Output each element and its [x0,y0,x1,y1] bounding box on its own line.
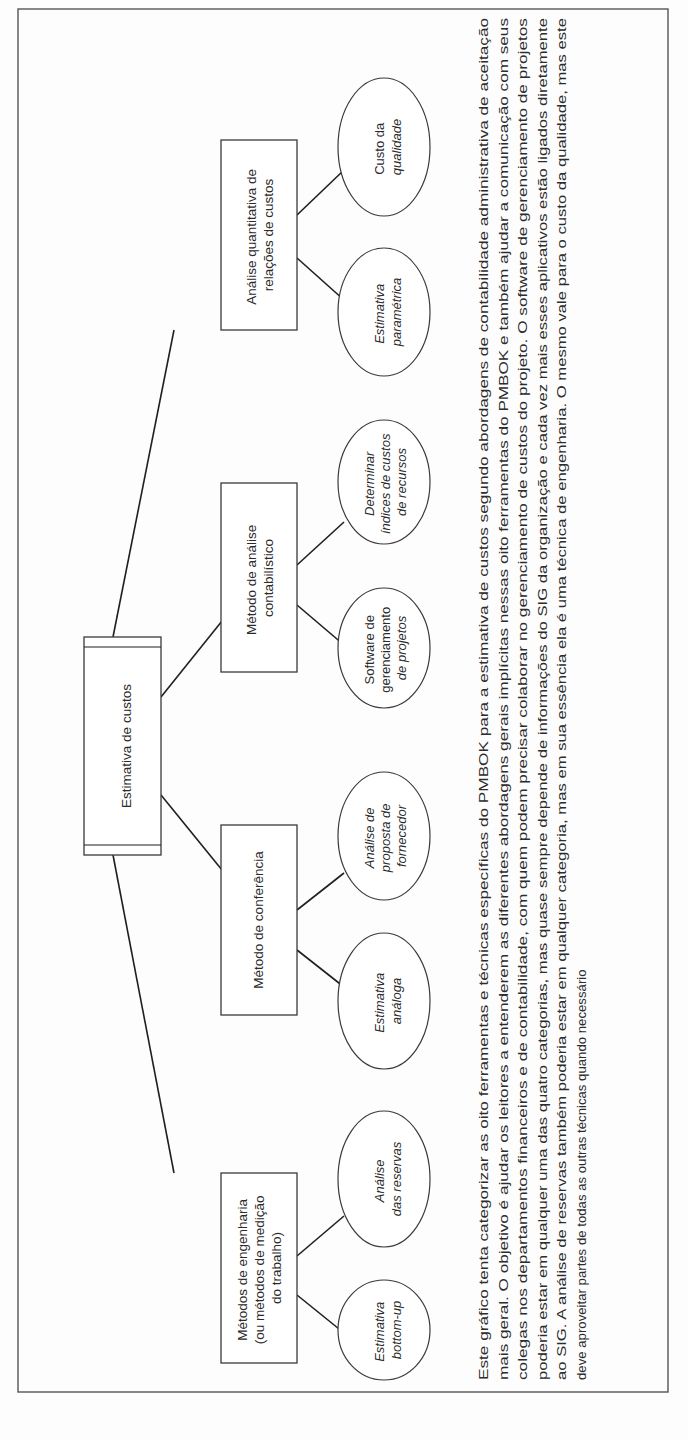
leaf-node: Determinar índices de custos de recursos [338,420,430,544]
category-label-line: contabilístico [261,539,276,617]
leaf-label-line: Análise [372,1159,387,1203]
category-label-line: relações de custos [261,178,276,291]
cost-estimation-diagram: Estimativa de custos Análise quantitativ… [0,0,688,1440]
leaf-label-line: índices de custos [378,433,393,534]
leaf-node: Análise das reservas [338,1111,430,1247]
edge-cat3-leaf2 [297,873,344,910]
svg-text:Método de conferência: Método de conferência [251,851,266,989]
leaf-label-line: de recursos [394,448,409,516]
leaf-node: Análise de proposta de fornecedor [338,772,430,900]
diagram-page: Estimativa de custos Análise quantitativ… [0,0,688,1440]
leaf-label-line: Determinar [362,451,377,516]
leaf-node: Estimativa bottom-up [338,1280,430,1380]
svg-text:Este gráfico tenta categorizar: Este gráfico tenta categorizar as oito f… [476,14,589,1380]
category-label-line: Método de análise [244,525,259,635]
leaf-label-line: de projetos [394,615,409,680]
svg-text:Software de gerenciament: Software de gerenciamento de projetos [362,603,409,693]
edge-root-cat3 [161,795,222,870]
caption-line: poderia estar em qualquer uma das quatro… [535,18,550,1380]
edge-cat1-leaf1 [297,258,344,300]
edge-root-cat2 [161,621,222,697]
leaf-label-line: Análise de [362,807,377,869]
leaf-label-line: gerenciamento [378,607,393,693]
edge-cat3-leaf1 [297,950,344,987]
leaf-label-line: análoga [389,978,404,1024]
edge-cat2-leaf1 [297,605,344,645]
category-node: Análise quantitativa de relações de cust… [221,140,297,330]
edge-cat4-leaf2 [297,1216,344,1256]
caption: Este gráfico tenta categorizar as oito f… [476,14,589,1380]
leaf-node: Software de gerenciamento de projetos [338,588,430,708]
category-node: Método de análise contabilístico [221,483,297,672]
leaf-label-line: qualidade [389,119,404,175]
caption-line: colegas nos departamentos financeiros e … [515,17,530,1380]
leaf-node: Custo da qualidade [338,78,430,216]
category-node: Métodos de engenharia (ou métodos de med… [221,1173,297,1363]
root-label: Estimativa de custos [119,684,134,808]
leaf-label-line: Estimativa [372,973,387,1033]
leaf-label-line: Custo da [372,122,387,175]
caption-line: Este gráfico tenta categorizar as oito f… [476,18,491,1380]
category-label-line: Métodos de engenharia [235,1198,250,1340]
leaf-node: Estimativa análoga [338,933,430,1069]
edge-cat2-leaf2 [297,522,344,565]
leaf-label-line: paramétrica [389,278,404,348]
leaf-label-line: proposta de [378,803,393,873]
leaf-label-line: das reservas [389,1141,404,1216]
leaf-node: Estimativa paramétrica [338,248,430,376]
leaf-label-line: bottom-up [389,1301,404,1360]
leaf-label-line: fornecedor [394,804,409,867]
leaf-label-line: Estimativa [372,1302,387,1362]
leaf-edges [297,170,344,1333]
svg-text:Análise de proposta de: Análise de proposta de fornecedor [362,800,409,873]
category-node: Método de conferência [221,825,297,1015]
edge-cat4-leaf1 [297,1295,344,1333]
root-node: Estimativa de custos [84,637,161,855]
edge-cat1-leaf2 [297,170,344,215]
category-label-line: (ou métodos de medição [252,1196,267,1345]
caption-line: deve aproveitar partes de todas as outra… [574,969,589,1380]
leaf-label-line: Estimativa [372,284,387,344]
category-label-line: do trabalho) [269,1232,284,1304]
caption-line: mais geral. O objetivo é ajudar os leito… [496,17,511,1380]
leaf-label-line: Software de [362,615,377,684]
caption-line: ao SIG. A análise de reservas também pod… [554,18,569,1380]
edge-root-cat4 [113,855,174,1173]
category-label-line: Método de conferência [251,851,266,989]
category-label-line: Análise quantitativa de [244,169,259,305]
edge-root-cat1 [113,330,174,637]
